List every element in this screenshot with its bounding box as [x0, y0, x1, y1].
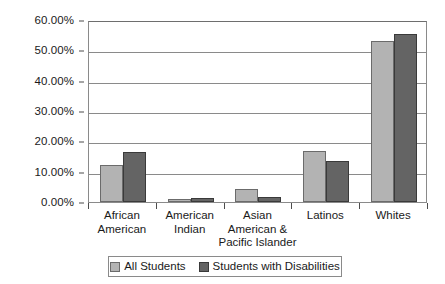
bar-chart: 0.00%10.00%20.00%30.00%40.00%50.00%60.00…: [0, 0, 445, 284]
legend-label: All Students: [124, 261, 185, 273]
y-tick-mark: [79, 21, 84, 22]
x-axis-labels: AfricanAmericanAmericanIndianAsianAmeric…: [88, 209, 427, 254]
legend-swatch-icon: [110, 262, 120, 272]
plot-area: [88, 21, 427, 203]
x-category-label: Whites: [351, 209, 435, 223]
y-tick-mark: [79, 142, 84, 143]
bar-group: [89, 22, 157, 202]
y-tick-label: 20.00%: [34, 137, 74, 149]
y-tick-label: 0.00%: [41, 197, 74, 209]
y-tick-label: 30.00%: [34, 106, 74, 118]
y-tick-mark: [79, 203, 84, 204]
bar-group: [360, 22, 428, 202]
y-tick-label: 10.00%: [34, 167, 74, 179]
bars-layer: [89, 22, 426, 202]
bar: [394, 34, 417, 202]
bar-group: [157, 22, 225, 202]
y-tick-label: 60.00%: [34, 15, 74, 27]
x-category-label-line: Whites: [351, 209, 435, 223]
y-tick-mark: [79, 51, 84, 52]
bar: [371, 41, 394, 202]
bar: [123, 152, 146, 202]
legend-entry[interactable]: Students with Disabilities: [199, 261, 340, 273]
legend-swatch-icon: [199, 262, 209, 272]
chart-legend: All StudentsStudents with Disabilities: [108, 256, 342, 277]
y-tick-mark: [79, 172, 84, 173]
y-tick-label: 50.00%: [34, 46, 74, 58]
bar-group: [225, 22, 293, 202]
y-tick-label: 40.00%: [34, 76, 74, 88]
y-axis: 0.00%10.00%20.00%30.00%40.00%50.00%60.00…: [0, 0, 84, 210]
x-category-label-line: American &: [216, 223, 300, 237]
bar: [235, 189, 258, 202]
bar: [191, 198, 214, 202]
legend-label: Students with Disabilities: [213, 261, 340, 273]
bar-group: [292, 22, 360, 202]
y-tick-mark: [79, 112, 84, 113]
bar: [326, 161, 349, 202]
bar: [258, 197, 281, 202]
x-category-label-line: Pacific Islander: [216, 236, 300, 250]
y-tick-mark: [79, 81, 84, 82]
bar: [100, 165, 123, 202]
legend-entry[interactable]: All Students: [110, 261, 185, 273]
bar: [168, 199, 191, 202]
bar: [303, 151, 326, 202]
